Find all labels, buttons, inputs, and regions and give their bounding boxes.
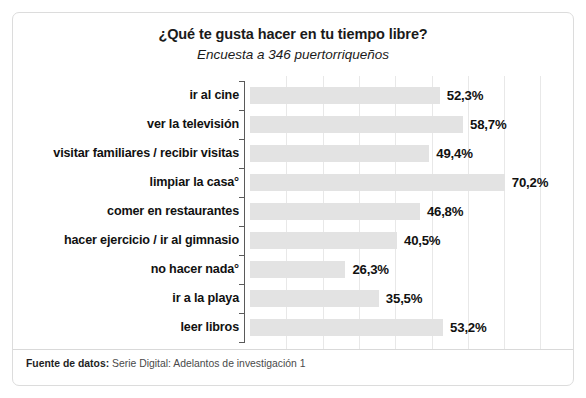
chart-title: ¿Qué te gusta hacer en tu tiempo libre? [13, 25, 573, 44]
axis-tick [239, 139, 245, 140]
value-label: 70,2% [512, 168, 548, 197]
chart-row: ver la televisión58,7% [13, 110, 574, 139]
category-label: comer en restaurantes [107, 197, 239, 226]
chart-row: leer libros53,2% [13, 313, 574, 342]
chart-row: visitar familiares / recibir visitas49,4… [13, 139, 574, 168]
value-label: 46,8% [427, 197, 463, 226]
axis-tick [239, 110, 245, 111]
chart-row: ir al cine52,3% [13, 81, 574, 110]
bar [250, 232, 397, 249]
value-label: 26,3% [352, 255, 388, 284]
value-label: 35,5% [386, 284, 422, 313]
bar [250, 145, 429, 162]
bar [250, 174, 505, 191]
data-source-note: Fuente de datos: Serie Digital: Adelanto… [26, 358, 306, 369]
chart-row: limpiar la casa°70,2% [13, 168, 574, 197]
data-source-label: Fuente de datos: [26, 358, 109, 369]
value-label: 53,2% [450, 313, 486, 342]
chart-header: ¿Qué te gusta hacer en tu tiempo libre? … [13, 25, 573, 64]
axis-tick [239, 255, 245, 256]
bar [250, 319, 443, 336]
data-source-text: Serie Digital: Adelantos de investigació… [109, 358, 305, 369]
value-label: 40,5% [404, 226, 440, 255]
chart-bars: ir al cine52,3%ver la televisión58,7%vis… [13, 76, 574, 349]
footer-divider [13, 349, 573, 350]
axis-tick [239, 342, 245, 343]
bar [250, 116, 463, 133]
axis-tick [239, 81, 245, 82]
axis-tick [239, 284, 245, 285]
chart-row: ir a la playa35,5% [13, 284, 574, 313]
bar [250, 290, 379, 307]
category-label: hacer ejercicio / ir al gimnasio [64, 226, 239, 255]
chart-plot-area: ir al cine52,3%ver la televisión58,7%vis… [13, 76, 574, 349]
category-label: leer libros [180, 313, 239, 342]
category-label: no hacer nada° [151, 255, 239, 284]
bar [250, 203, 420, 220]
chart-subtitle: Encuesta a 346 puertorriqueños [13, 45, 573, 64]
axis-tick [239, 168, 245, 169]
value-label: 58,7% [470, 110, 506, 139]
chart-row: hacer ejercicio / ir al gimnasio40,5% [13, 226, 574, 255]
category-label: ir a la playa [172, 284, 239, 313]
chart-card: ¿Qué te gusta hacer en tu tiempo libre? … [12, 12, 574, 386]
category-label: visitar familiares / recibir visitas [53, 139, 239, 168]
bar [250, 261, 345, 278]
value-label: 49,4% [436, 139, 472, 168]
value-label: 52,3% [447, 81, 483, 110]
chart-row: comer en restaurantes46,8% [13, 197, 574, 226]
chart-row: no hacer nada°26,3% [13, 255, 574, 284]
bar [250, 87, 440, 104]
axis-tick [239, 313, 245, 314]
category-label: ir al cine [189, 81, 239, 110]
axis-tick [239, 197, 245, 198]
axis-tick [239, 226, 245, 227]
category-label: limpiar la casa° [150, 168, 239, 197]
category-label: ver la televisión [147, 110, 239, 139]
